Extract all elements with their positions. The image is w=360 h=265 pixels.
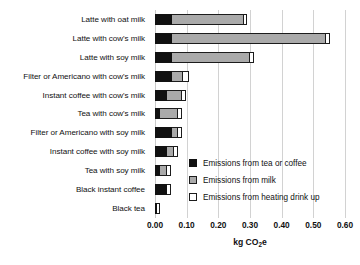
y-axis-label: Latte with cow's milk xyxy=(73,29,145,48)
x-axis-tick-label: 0.10 xyxy=(179,220,195,230)
legend-swatch-coffee xyxy=(189,159,197,167)
stacked-bar xyxy=(155,71,189,82)
bar-segment-coffee xyxy=(155,184,167,195)
bar-segment-coffee xyxy=(155,14,172,25)
bar-segment-coffee xyxy=(155,52,172,63)
bar-row xyxy=(155,123,345,142)
legend-label: Emissions from heating drink up xyxy=(203,193,320,202)
x-axis-tick-label: 0.60 xyxy=(337,220,353,230)
bar-segment-heat xyxy=(250,52,254,63)
bar-segment-heat xyxy=(326,33,330,44)
y-axis-label: Instant coffee with soy milk xyxy=(50,142,145,161)
y-axis-label: Filter or Americano with cow's milk xyxy=(23,67,145,86)
bar-segment-milk xyxy=(160,165,167,176)
bar-segment-heat xyxy=(157,203,160,214)
stacked-bar xyxy=(155,184,171,195)
x-axis-ticks: 0.000.100.200.300.400.500.60 xyxy=(155,220,345,232)
bar-row xyxy=(155,48,345,67)
bar-segment-heat xyxy=(174,146,178,157)
stacked-bar xyxy=(155,127,182,138)
x-axis-tick-label: 0.30 xyxy=(242,220,258,230)
x-axis-tick-label: 0.20 xyxy=(210,220,226,230)
gridline xyxy=(345,10,346,218)
bar-row xyxy=(155,86,345,105)
bar-row xyxy=(155,29,345,48)
y-axis-label: Tea with cow's milk xyxy=(77,105,145,124)
bar-chart: Latte with oat milkLatte with cow's milk… xyxy=(0,0,360,265)
bar-segment-milk xyxy=(167,146,174,157)
y-axis-labels: Latte with oat milkLatte with cow's milk… xyxy=(0,10,150,218)
bar-segment-coffee xyxy=(155,71,172,82)
legend-label: Emissions from tea or coffee xyxy=(203,159,307,168)
bar-segment-heat xyxy=(178,127,182,138)
bar-row xyxy=(155,67,345,86)
bar-segment-heat xyxy=(244,14,247,25)
y-axis-label: Black tea xyxy=(112,199,145,218)
y-axis-label: Tea with soy milk xyxy=(85,161,145,180)
bar-segment-milk xyxy=(167,90,182,101)
stacked-bar xyxy=(155,146,178,157)
legend-item: Emissions from milk xyxy=(189,172,320,188)
stacked-bar xyxy=(155,203,160,214)
legend-item: Emissions from heating drink up xyxy=(189,189,320,205)
bar-segment-heat xyxy=(167,184,171,195)
stacked-bar xyxy=(155,14,247,25)
stacked-bar xyxy=(155,108,182,119)
bar-segment-milk xyxy=(172,14,243,25)
legend-swatch-heat xyxy=(189,193,197,201)
x-axis-title-tail: e xyxy=(262,237,267,247)
x-axis-tick-label: 0.50 xyxy=(305,220,321,230)
chart-legend: Emissions from tea or coffeeEmissions fr… xyxy=(189,155,320,206)
y-axis-label: Black instant coffee xyxy=(76,180,145,199)
legend-swatch-milk xyxy=(189,176,197,184)
bar-segment-milk xyxy=(160,108,178,119)
bar-segment-heat xyxy=(182,90,186,101)
bar-row xyxy=(155,105,345,124)
bar-segment-milk xyxy=(172,71,183,82)
legend-label: Emissions from milk xyxy=(203,176,276,185)
bar-segment-coffee xyxy=(155,90,167,101)
y-axis-label: Latte with soy milk xyxy=(80,48,145,67)
y-axis-label: Latte with oat milk xyxy=(81,10,145,29)
stacked-bar xyxy=(155,90,186,101)
x-axis-tick-label: 0.40 xyxy=(274,220,290,230)
y-axis-label: Filter or Americano with soy milk xyxy=(31,123,145,142)
y-axis-label: Instant coffee with cow's milk xyxy=(43,86,145,105)
stacked-bar xyxy=(155,165,171,176)
bar-segment-milk xyxy=(172,52,250,63)
bar-segment-milk xyxy=(172,33,326,44)
x-axis-title-main: kg CO xyxy=(233,237,258,247)
bar-segment-coffee xyxy=(155,127,172,138)
bar-segment-heat xyxy=(183,71,188,82)
legend-item: Emissions from tea or coffee xyxy=(189,155,320,171)
x-axis-title: kg CO2e xyxy=(155,237,345,247)
x-axis-tick-label: 0.00 xyxy=(147,220,163,230)
bar-segment-coffee xyxy=(155,33,172,44)
stacked-bar xyxy=(155,52,254,63)
bar-segment-heat xyxy=(178,108,182,119)
bar-segment-coffee xyxy=(155,146,167,157)
bar-row xyxy=(155,10,345,29)
x-axis-title-subscript: 2 xyxy=(259,241,263,248)
bar-segment-heat xyxy=(167,165,171,176)
stacked-bar xyxy=(155,33,330,44)
